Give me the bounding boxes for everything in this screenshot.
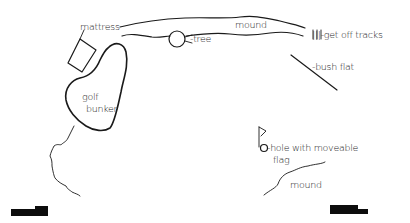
- label-bush-flat: -bush flat: [312, 61, 355, 72]
- tree: [169, 31, 192, 47]
- site-map-sketch: mattress mound -tree |||-get off tracks …: [0, 0, 410, 223]
- bottom-right-block-extension: [330, 209, 368, 214]
- left-edge: [50, 126, 80, 196]
- label-golf: golf: [82, 91, 99, 102]
- label-hole-line2: flag: [273, 154, 289, 165]
- golf-bunker: [66, 44, 127, 131]
- bottom-left-block: [11, 209, 36, 216]
- label-get-off-tracks: |||-get off tracks: [312, 29, 383, 40]
- label-hole-line1: -hole with moveable: [267, 142, 359, 153]
- bottom-left-block-step: [35, 206, 48, 216]
- label-mattress: mattress: [80, 21, 120, 32]
- top-mound: [120, 16, 305, 37]
- label-bunker: bunker: [86, 103, 118, 114]
- label-mound-bottom: mound: [290, 179, 322, 190]
- label-mound-top: mound: [235, 19, 267, 30]
- label-tree: -tree: [190, 33, 211, 44]
- mattress: [68, 30, 96, 72]
